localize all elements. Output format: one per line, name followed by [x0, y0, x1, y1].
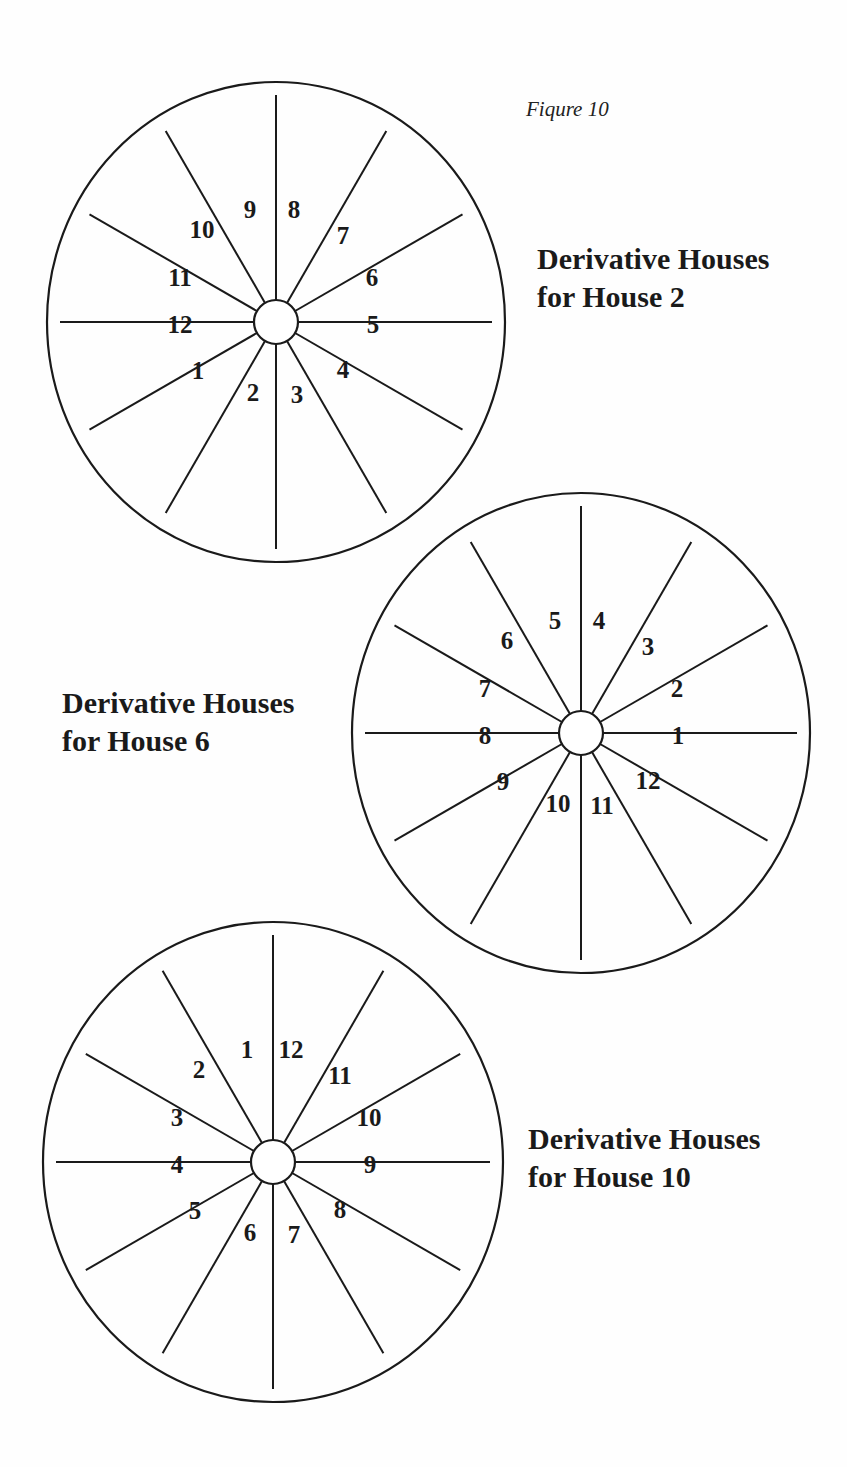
house-number-label: 6	[501, 627, 514, 654]
spoke-line	[395, 625, 562, 722]
wheel-house-2: 876543211211109	[47, 82, 505, 562]
house-number-label: 9	[244, 196, 257, 223]
hub-circle	[559, 711, 603, 755]
house-wheels-diagram: 876543211211109 432112111098765 12111098…	[0, 0, 847, 1467]
house-number-label: 7	[479, 675, 492, 702]
house-number-label: 1	[241, 1036, 254, 1063]
spoke-line	[292, 1173, 460, 1270]
wheel-house-6: 432112111098765	[352, 493, 810, 973]
house-number-label: 10	[357, 1104, 382, 1131]
house-number-label: 3	[171, 1104, 184, 1131]
house-number-label: 5	[549, 607, 562, 634]
house-number-label: 4	[593, 607, 606, 634]
house-number-label: 9	[497, 768, 510, 795]
spoke-line	[395, 744, 562, 841]
spoke-line	[166, 341, 265, 513]
spoke-line	[471, 752, 570, 924]
house-number-label: 8	[288, 196, 301, 223]
house-number-label: 11	[168, 264, 192, 291]
spoke-line	[86, 1054, 254, 1151]
spoke-line	[600, 744, 767, 841]
house-number-label: 2	[193, 1056, 206, 1083]
spoke-line	[295, 333, 462, 430]
spoke-line	[292, 1054, 460, 1151]
house-number-label: 6	[244, 1219, 257, 1246]
spoke-line	[90, 333, 257, 430]
house-number-label: 3	[642, 633, 655, 660]
house-number-label: 4	[337, 356, 350, 383]
house-number-label: 3	[291, 381, 304, 408]
house-number-label: 7	[337, 222, 350, 249]
house-number-label: 11	[590, 792, 614, 819]
house-number-label: 4	[171, 1151, 184, 1178]
spoke-line	[90, 214, 257, 311]
house-number-label: 5	[367, 311, 380, 338]
house-number-label: 12	[636, 767, 661, 794]
house-number-label: 1	[672, 722, 685, 749]
house-number-label: 7	[288, 1221, 301, 1248]
house-number-label: 8	[479, 722, 492, 749]
hub-circle	[254, 300, 298, 344]
house-number-label: 6	[366, 264, 379, 291]
spoke-line	[86, 1173, 254, 1270]
house-number-label: 2	[671, 675, 684, 702]
house-number-label: 9	[364, 1151, 377, 1178]
house-number-label: 10	[546, 790, 571, 817]
spoke-line	[163, 1181, 262, 1353]
house-number-label: 10	[190, 216, 215, 243]
house-number-label: 11	[328, 1062, 352, 1089]
spoke-line	[600, 625, 767, 722]
figure-page: Fiqure 10 Derivative Houses for House 2 …	[0, 0, 847, 1467]
house-number-label: 12	[279, 1036, 304, 1063]
wheel-house-10: 121110987654321	[43, 922, 503, 1402]
house-number-label: 1	[192, 357, 205, 384]
house-number-label: 5	[189, 1197, 202, 1224]
house-number-label: 8	[334, 1196, 347, 1223]
hub-circle	[251, 1140, 295, 1184]
house-number-label: 12	[168, 311, 193, 338]
spoke-line	[295, 214, 462, 311]
house-number-label: 2	[247, 379, 260, 406]
